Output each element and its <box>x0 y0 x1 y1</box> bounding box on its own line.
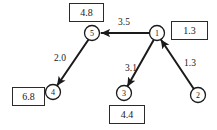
node-2[interactable]: 2 <box>191 88 206 103</box>
node-3[interactable]: 3 <box>117 86 132 101</box>
node-4-label: 4 <box>51 88 55 97</box>
node-5[interactable]: 5 <box>85 26 100 41</box>
node-3-label: 3 <box>122 89 126 98</box>
edge-weight-2-1: 1.3 <box>184 58 196 68</box>
node-5-label: 5 <box>90 29 94 38</box>
node-1[interactable]: 1 <box>150 26 165 41</box>
edges-group <box>57 33 193 89</box>
edge-weight-1-3: 3.1 <box>125 63 137 73</box>
node-1-label: 1 <box>155 29 159 38</box>
node-4[interactable]: 4 <box>46 85 61 100</box>
node-2-label: 2 <box>196 91 200 100</box>
graph-diagram: 3.5 2.0 3.1 1.3 1 2 3 4 <box>0 0 217 130</box>
edge-weight-5-4: 2.0 <box>54 53 66 63</box>
value-box-node-5: 4.8 <box>69 3 104 22</box>
edge-weight-1-5: 3.5 <box>118 17 130 27</box>
value-box-node-1: 1.3 <box>171 21 208 40</box>
value-box-node-3: 4.4 <box>109 105 145 124</box>
value-box-node-4: 6.8 <box>12 87 45 106</box>
